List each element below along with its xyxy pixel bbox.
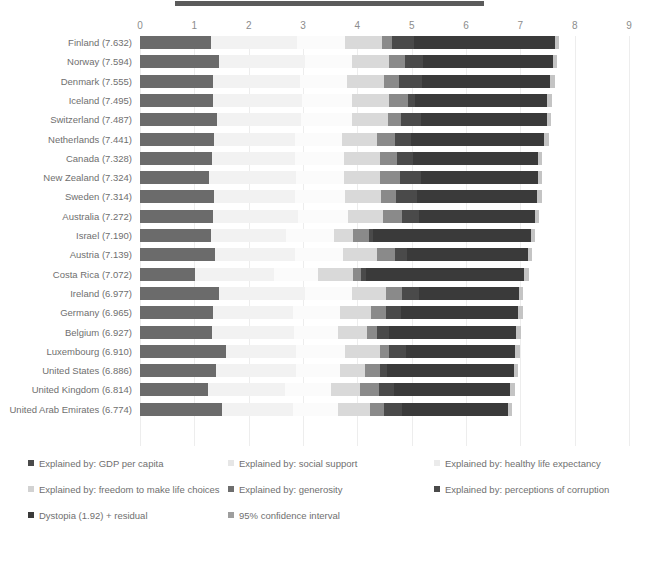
bar-segment — [382, 36, 392, 49]
bar-segment — [219, 55, 305, 68]
x-axis-tick: 7 — [518, 19, 524, 33]
bar-segment — [392, 36, 413, 49]
legend-item[interactable]: Explained by: social support — [228, 458, 357, 470]
legend-label: Explained by: perceptions of corruption — [445, 484, 609, 496]
bar-segment — [370, 403, 384, 416]
bar-segment — [379, 383, 394, 396]
bar-segment — [415, 94, 547, 107]
bar-segment — [353, 229, 368, 242]
bar-segment — [296, 345, 345, 358]
legend-label: Explained by: GDP per capita — [39, 458, 163, 470]
bar-segment — [140, 268, 195, 281]
legend-swatch-icon — [228, 460, 234, 466]
legend-label: Dystopia (1.92) + residual — [39, 510, 148, 522]
bar-segment — [214, 190, 296, 203]
stacked-bar — [140, 36, 559, 49]
bar-segment — [423, 55, 552, 68]
bar-segment — [389, 55, 405, 68]
country-label: Australia (7.272) — [0, 210, 132, 223]
bar-segment — [400, 171, 421, 184]
country-label: Switzerland (7.487) — [0, 113, 132, 126]
bar-segment — [298, 210, 347, 223]
bar-segment — [295, 248, 343, 261]
bar-row: Norway (7.594) — [0, 55, 649, 74]
stacked-bar — [140, 364, 518, 377]
legend-item[interactable]: Explained by: perceptions of corruption — [434, 484, 609, 496]
legend-item[interactable]: Explained by: generosity — [228, 484, 343, 496]
bar-segment — [384, 403, 401, 416]
bar-segment — [402, 210, 418, 223]
bar-segment — [538, 152, 542, 165]
bar-row: Netherlands (7.441) — [0, 133, 649, 152]
bar-segment — [421, 171, 538, 184]
bar-segment — [344, 152, 379, 165]
bar-segment — [140, 229, 211, 242]
bar-segment — [140, 345, 226, 358]
bar-segment — [305, 287, 353, 300]
bar-row: Germany (6.965) — [0, 306, 649, 325]
legend-item[interactable]: Dystopia (1.92) + residual — [28, 510, 148, 522]
legend-swatch-icon — [28, 486, 34, 492]
bar-segment — [553, 55, 557, 68]
legend-item[interactable]: Explained by: freedom to make life choic… — [28, 484, 220, 496]
stacked-bar — [140, 306, 523, 319]
legend-item[interactable]: Explained by: healthy life expectancy — [434, 458, 601, 470]
bar-segment — [140, 383, 208, 396]
legend-item[interactable]: Explained by: GDP per capita — [28, 458, 163, 470]
bar-segment — [389, 345, 406, 358]
legend-item[interactable]: 95% confidence interval — [228, 510, 340, 522]
bar-segment — [386, 306, 400, 319]
legend-label: Explained by: generosity — [239, 484, 343, 496]
bar-segment — [380, 364, 387, 377]
bar-segment — [547, 113, 551, 126]
bar-segment — [544, 133, 548, 146]
legend-swatch-icon — [28, 460, 34, 466]
bar-row: Austria (7.139) — [0, 248, 649, 267]
bar-segment — [347, 75, 384, 88]
bar-segment — [222, 403, 293, 416]
stacked-bar — [140, 113, 551, 126]
stacked-bar — [140, 152, 542, 165]
bar-segment — [140, 152, 212, 165]
bar-segment — [300, 75, 347, 88]
bar-segment — [226, 345, 297, 358]
bar-segment — [334, 229, 354, 242]
bar-row: Ireland (6.977) — [0, 287, 649, 306]
title-bar-strip — [175, 1, 484, 6]
bar-segment — [345, 345, 380, 358]
bar-segment — [213, 75, 299, 88]
bar-segment — [396, 190, 417, 203]
x-axis-tick: 2 — [246, 19, 252, 33]
bar-segment — [301, 113, 351, 126]
legend-swatch-icon — [434, 486, 440, 492]
bar-segment — [293, 403, 338, 416]
bar-segment — [510, 383, 514, 396]
legend-label: Explained by: social support — [239, 458, 357, 470]
bar-segment — [421, 113, 547, 126]
bar-segment — [213, 94, 302, 107]
bar-segment — [140, 133, 214, 146]
bar-segment — [371, 306, 386, 319]
bar-segment — [407, 248, 528, 261]
bar-segment — [395, 248, 407, 261]
bar-segment — [519, 287, 523, 300]
stacked-bar — [140, 75, 555, 88]
stacked-bar — [140, 248, 532, 261]
bar-segment — [297, 36, 344, 49]
bar-segment — [295, 152, 344, 165]
bar-segment — [305, 55, 352, 68]
stacked-bar — [140, 268, 529, 281]
bar-segment — [140, 94, 213, 107]
bar-segment — [140, 248, 215, 261]
country-label: Germany (6.965) — [0, 306, 132, 319]
bar-segment — [366, 268, 524, 281]
bar-segment — [514, 364, 518, 377]
bar-segment — [394, 383, 510, 396]
bar-segment — [538, 171, 542, 184]
bar-row: United Kingdom (6.814) — [0, 383, 649, 402]
bar-segment — [537, 190, 541, 203]
bar-segment — [528, 248, 532, 261]
bar-row: New Zealand (7.324) — [0, 171, 649, 190]
bar-segment — [383, 210, 403, 223]
stacked-bar — [140, 383, 515, 396]
